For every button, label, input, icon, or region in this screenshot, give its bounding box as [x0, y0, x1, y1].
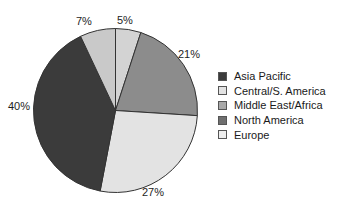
legend-swatch-icon: [218, 72, 227, 81]
legend-swatch-icon: [218, 116, 227, 125]
legend-item-label: Central/S. America: [234, 85, 326, 97]
chart-legend: Asia PacificCentral/S. AmericaMiddle Eas…: [218, 69, 337, 142]
slice-label-central-s-america: 27%: [142, 186, 164, 198]
legend-item[interactable]: Europe: [218, 127, 337, 142]
legend-item[interactable]: Middle East/Africa: [218, 98, 337, 113]
legend-swatch-icon: [218, 101, 227, 110]
legend-item[interactable]: Asia Pacific: [218, 69, 337, 84]
legend-item[interactable]: Central/S. America: [218, 84, 337, 99]
legend-item-label: Middle East/Africa: [234, 99, 323, 111]
slice-label-middle-east-africa: 21%: [178, 48, 200, 60]
slice-label-europe: 5%: [117, 14, 133, 26]
legend-swatch-icon: [218, 86, 227, 95]
legend-item-label: Asia Pacific: [234, 70, 291, 82]
slice-label-asia-pacific: 40%: [8, 100, 30, 112]
legend-item-label: North America: [234, 114, 304, 126]
pie-chart-figure: 7% 5% 21% 27% 40% Asia PacificCentral/S.…: [0, 0, 337, 206]
legend-swatch-icon: [218, 130, 227, 139]
pie-slice-group: [33, 29, 197, 193]
legend-item-label: Europe: [234, 129, 269, 141]
legend-item[interactable]: North America: [218, 113, 337, 128]
slice-label-north-america: 7%: [76, 15, 92, 27]
pie-slice: [100, 111, 197, 193]
